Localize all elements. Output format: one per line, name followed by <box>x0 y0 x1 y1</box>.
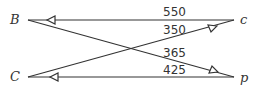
edge-label-365: 365 <box>163 46 186 60</box>
node-c: c <box>240 12 248 27</box>
node-p: p <box>240 70 249 85</box>
arrow-left-icon <box>50 73 58 81</box>
flow-diagram: B C c p 550 350 365 425 <box>0 0 259 90</box>
edge-label-350: 350 <box>163 23 186 37</box>
arrow-down-right-icon <box>209 66 218 73</box>
arrow-up-right-icon <box>208 25 217 32</box>
arrow-left-icon <box>47 16 55 24</box>
edge-label-425: 425 <box>163 63 186 77</box>
edge-label-550: 550 <box>163 5 186 19</box>
node-B: B <box>9 12 20 27</box>
node-C: C <box>10 69 20 84</box>
